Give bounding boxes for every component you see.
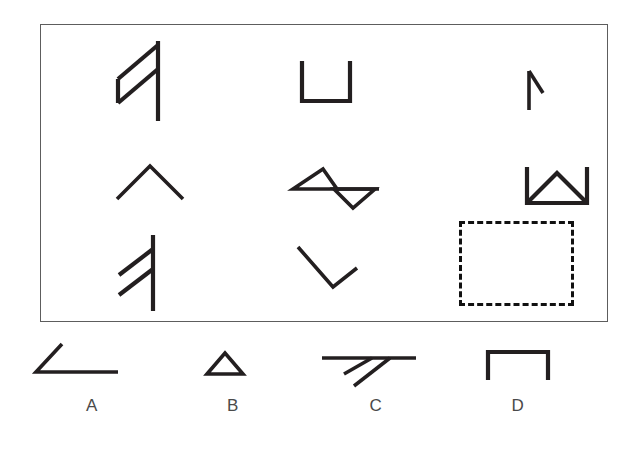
matrix-cell-row2-col2[interactable]	[279, 155, 399, 215]
answer-option-b[interactable]: B	[163, 338, 303, 430]
answer-option-d-label: D	[448, 396, 588, 416]
horizontal-line-with-two-downleft-diagonals-shape	[306, 338, 446, 390]
vertical-line-with-two-upleft-diagonals-shape	[91, 227, 211, 319]
small-triangle-shape	[163, 338, 303, 390]
caret-up-chevron-shape	[99, 153, 209, 215]
angle-diagonal-with-horizontal-shape	[22, 338, 162, 390]
answer-option-c-label: C	[306, 396, 446, 416]
n-bracket-open-bottom-shape	[448, 338, 588, 390]
answer-option-b-label: B	[163, 396, 303, 416]
answer-options-row: A B C D	[0, 338, 642, 438]
matrix-cell-row1-col2[interactable]	[281, 53, 371, 123]
matrix-frame	[40, 24, 608, 322]
matrix-cell-row1-col1[interactable]	[96, 37, 216, 127]
check-mark-v-shape	[281, 231, 391, 307]
answer-option-a-label: A	[22, 396, 162, 416]
matrix-cell-row2-col3[interactable]	[481, 153, 591, 215]
matrix-cell-row3-col2[interactable]	[281, 231, 391, 307]
matrix-cell-row3-col3-empty-slot[interactable]	[459, 221, 574, 306]
small-flag-vertical-with-diagonal-shape	[491, 55, 571, 121]
u-bracket-open-top-shape	[281, 53, 371, 123]
vertical-line-with-two-upleft-diagonals-shape	[96, 37, 216, 127]
answer-option-a[interactable]: A	[22, 338, 162, 430]
matrix-cell-row2-col1[interactable]	[99, 153, 209, 215]
matrix-cell-row3-col1[interactable]	[91, 227, 211, 319]
double-triangle-bowtie-shape	[279, 155, 399, 215]
matrix-cell-row1-col3[interactable]	[491, 55, 571, 121]
answer-option-c[interactable]: C	[306, 338, 446, 430]
answer-option-d[interactable]: D	[448, 338, 588, 430]
u-bracket-with-inner-triangle-shape	[481, 153, 591, 215]
